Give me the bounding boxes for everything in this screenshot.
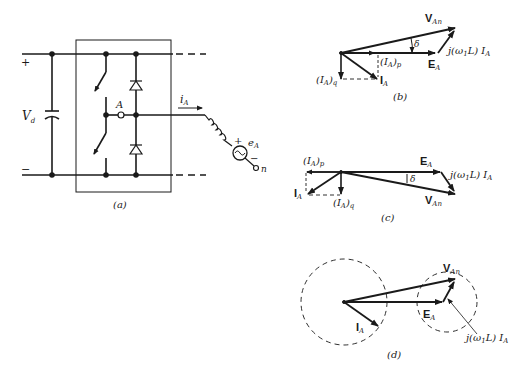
- jwl-label: j(ω1L) IA: [446, 45, 490, 58]
- emf-plus-label: +: [234, 135, 242, 146]
- ea-label: EA: [428, 58, 440, 72]
- ia-label: IA: [380, 74, 388, 88]
- ea-label: EA: [420, 155, 432, 169]
- ia-p-label: (IA)p: [380, 56, 402, 69]
- van-phasor: [341, 28, 455, 53]
- lower-switch: [94, 97, 108, 177]
- jwl-label: j(ω1L) IA: [464, 332, 508, 345]
- van-phasor: [341, 172, 455, 194]
- ia-q-label: (IA)q: [333, 197, 355, 210]
- ea-label: EA: [423, 308, 435, 322]
- caption-b: (b): [393, 91, 407, 102]
- van-label: VAn: [425, 194, 442, 208]
- jwl-leader-line: [448, 299, 477, 334]
- neutral-label: n: [261, 164, 267, 174]
- neutral-terminal: [254, 166, 259, 171]
- delta-label: δ: [414, 39, 419, 49]
- ia-phasor: [308, 172, 341, 194]
- inductor: [205, 115, 232, 146]
- emf-label: eA: [248, 137, 259, 150]
- caption-a: (a): [113, 199, 127, 210]
- caption-d: (d): [387, 349, 401, 360]
- node-a-terminal: [118, 112, 124, 118]
- node-a-label: A: [115, 99, 123, 110]
- ia-phasor: [341, 53, 377, 79]
- van-phasor: [344, 279, 455, 302]
- caption-c: (c): [381, 212, 395, 223]
- upper-diode: [130, 81, 142, 90]
- vd-label: Vd: [22, 109, 36, 125]
- ia-label: IA: [356, 321, 364, 335]
- panel-b-labels: VAn δ j(ω1L) IA EA (IA)p (IA)q IA (b): [316, 12, 490, 102]
- ia-label: IA: [294, 187, 302, 201]
- panel-c-labels: (IA)p EA j(ω1L) IA δ IA (IA)q VAn (c): [294, 155, 492, 223]
- figure-canvas: + − Vd A iA + eA − n (a) VAn δ j(ω1L) IA…: [0, 0, 528, 370]
- panel-a-labels: + − Vd A iA + eA − n (a): [21, 56, 267, 210]
- upper-switch: [95, 52, 108, 91]
- ia-phasor: [344, 302, 378, 326]
- ia-p-label: (IA)p: [303, 155, 325, 168]
- van-label: VAn: [443, 262, 460, 276]
- lower-diode: [130, 145, 142, 154]
- delta-label: δ: [410, 174, 415, 184]
- emf-minus-label: −: [250, 153, 258, 164]
- jwl-label: j(ω1L) IA: [448, 169, 492, 182]
- panel-d-labels: VAn EA IA j(ω1L) IA (d): [356, 262, 508, 360]
- plus-label: +: [21, 56, 30, 69]
- minus-label: −: [21, 163, 30, 176]
- van-label: VAn: [425, 12, 442, 26]
- sine-icon: [235, 151, 245, 155]
- panel-a-circuit: [22, 40, 259, 192]
- panel-c-phasors: [306, 171, 455, 196]
- capacitor: [45, 52, 59, 177]
- current-label: iA: [180, 93, 189, 107]
- ia-q-label: (IA)q: [316, 74, 338, 87]
